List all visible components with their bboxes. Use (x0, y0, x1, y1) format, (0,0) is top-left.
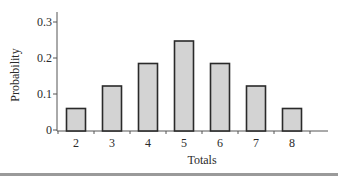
bar-chart: 00.10.20.3 2345678 Probability Totals (0, 0, 338, 176)
x-axis-label: Totals (187, 153, 216, 167)
x-tick-label: 7 (253, 136, 259, 150)
bars (67, 41, 302, 131)
bar-4 (139, 64, 158, 132)
y-tick-label: 0.1 (37, 87, 52, 101)
y-tick-label: 0.2 (37, 51, 52, 65)
y-tick-label: 0.3 (37, 15, 52, 29)
x-tick-label: 5 (181, 136, 187, 150)
bar-3 (103, 86, 122, 131)
x-tick-label: 3 (109, 136, 115, 150)
y-tick-label: 0 (46, 123, 52, 137)
x-axis: 2345678 (57, 131, 328, 150)
bar-6 (211, 64, 230, 132)
x-tick-label: 4 (145, 136, 151, 150)
bar-8 (283, 109, 302, 132)
bar-5 (175, 41, 194, 131)
bottom-border (0, 173, 338, 176)
bar-7 (247, 86, 266, 131)
y-axis: 00.10.20.3 (37, 12, 57, 137)
x-tick-label: 8 (289, 136, 295, 150)
y-axis-label: Probability (8, 48, 22, 101)
x-tick-label: 2 (73, 136, 79, 150)
x-tick-label: 6 (217, 136, 223, 150)
bar-2 (67, 109, 86, 132)
